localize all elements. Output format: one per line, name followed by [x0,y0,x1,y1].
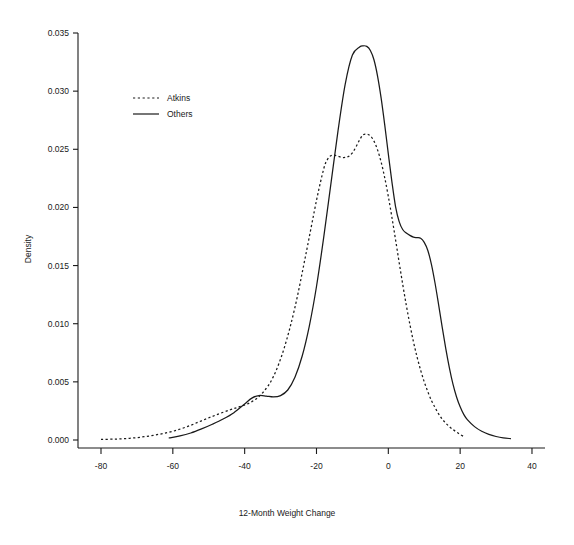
x-axis-title: 12-Month Weight Change [239,508,336,518]
legend-label-others: Others [167,109,193,119]
density-curve-atkins [101,134,464,439]
legend-label-atkins: Atkins [167,93,190,103]
y-axis: 0.0000.0050.0100.0150.0200.0250.0300.035 [48,28,78,448]
x-tick-label: 0 [386,461,391,471]
x-tick-label: -40 [239,461,252,471]
y-tick-label: 0.025 [48,144,70,154]
y-tick-label: 0.035 [48,28,70,38]
y-tick-label: 0.010 [48,319,70,329]
density-curves [101,46,510,440]
y-tick-label: 0.005 [48,377,70,387]
y-tick-label: 0.030 [48,86,70,96]
x-tick-label: -80 [95,461,108,471]
chart-legend: AtkinsOthers [133,93,193,119]
x-axis: -80-60-40-2002040 [78,448,545,471]
y-tick-label: 0.000 [48,435,70,445]
x-tick-label: -20 [310,461,323,471]
density-plot-figure: 0.0000.0050.0100.0150.0200.0250.0300.035… [0,0,574,545]
chart-canvas: 0.0000.0050.0100.0150.0200.0250.0300.035… [0,0,574,545]
y-axis-title: Density [23,234,33,263]
x-tick-label: 40 [527,461,537,471]
y-tick-label: 0.015 [48,261,70,271]
x-tick-label: 20 [455,461,465,471]
density-curve-others [169,46,510,439]
x-tick-label: -60 [167,461,180,471]
y-tick-label: 0.020 [48,202,70,212]
